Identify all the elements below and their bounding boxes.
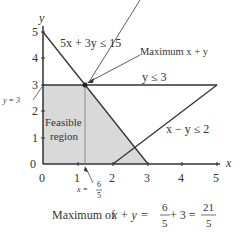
x-tick-1: 1	[74, 171, 80, 185]
y-tick-5: 5	[32, 25, 38, 39]
caption-f2-num: 21	[203, 201, 214, 213]
constraint-label-2: y ≤ 3	[142, 70, 167, 84]
max-point	[83, 83, 88, 88]
caption-f2-den: 5	[206, 217, 212, 229]
x-tick-2: 2	[109, 171, 115, 185]
constraint-label-1: 5x + 3y ≤ 15	[60, 36, 121, 50]
max-arrow-line	[89, 55, 140, 82]
caption-f1-den: 5	[162, 217, 168, 229]
x-eq-den: 5	[97, 191, 101, 200]
linear-programming-diagram: y x 0 1 2 3 4 5 0 1 2 3 4 5 5x + 3y ≤ 15…	[0, 0, 248, 242]
x-tick-3: 3	[144, 171, 150, 185]
y-tick-0: 0	[30, 157, 36, 171]
caption-f1-num: 6	[162, 201, 168, 213]
x65-arrow-head-icon	[84, 166, 88, 172]
region-label-1: Feasible	[45, 116, 82, 128]
max-point-label: Maximum x + y	[140, 46, 209, 57]
y-axis-label: y	[38, 11, 45, 25]
y-eq-3-label: y = 3	[2, 96, 20, 105]
x-eq-label: x =	[76, 185, 88, 194]
caption-plus: + 3 =	[170, 208, 196, 222]
region-label-2: region	[50, 130, 79, 142]
x-tick-labels: 0 1 2 3 4 5	[39, 171, 219, 185]
y-tick-3: 3	[32, 78, 38, 92]
x-axis-label: x	[225, 156, 232, 170]
x-tick-5: 5	[213, 171, 219, 185]
caption-expr: x + y	[111, 208, 137, 222]
x-tick-4: 4	[178, 171, 184, 185]
y-tick-4: 4	[32, 51, 38, 65]
x-eq-num: 6	[97, 180, 101, 189]
caption-eq: =	[141, 208, 148, 222]
x-tick-0: 0	[39, 171, 45, 185]
caption-prefix: Maximum of	[52, 208, 115, 222]
y-tick-1: 1	[32, 131, 38, 145]
constraint-label-3: x − y ≤ 2	[166, 122, 209, 136]
y-tick-2: 2	[32, 104, 38, 118]
arrow-head-icon	[87, 78, 94, 83]
